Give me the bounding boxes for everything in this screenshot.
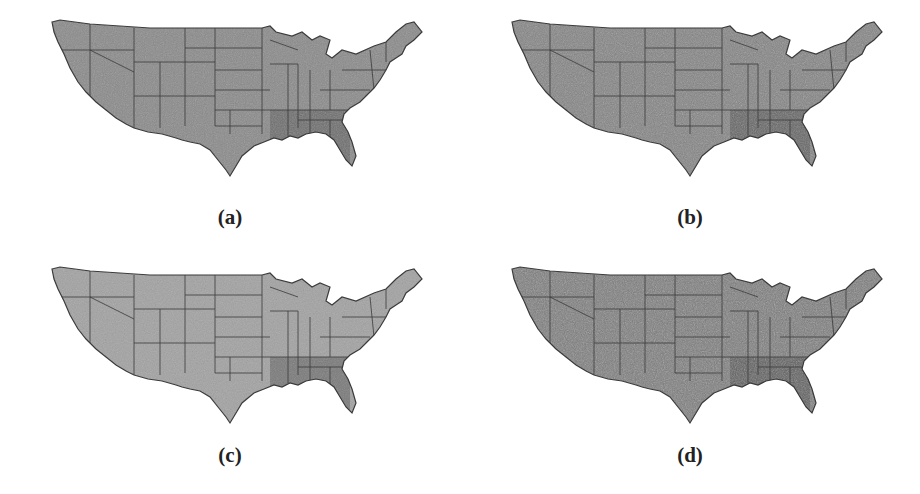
map-panel-b: (b) [460,0,920,247]
us-map [490,257,890,457]
panel-caption: (a) [0,205,460,230]
us-map [490,10,890,210]
panel-caption: (b) [460,205,920,230]
map-panel-a: (a) [0,0,460,247]
map-panel-c: (c) [0,247,460,494]
us-map [30,257,430,457]
map-panel-d: (d) [460,247,920,494]
panel-caption: (c) [0,443,460,468]
us-map [30,10,430,210]
panel-caption: (d) [460,443,920,468]
